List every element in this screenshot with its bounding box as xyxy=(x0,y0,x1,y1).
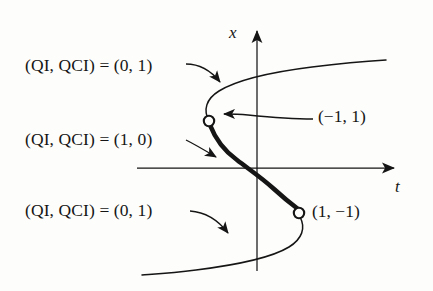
x-axis-label: x xyxy=(229,24,237,41)
arrow-cond-lower xyxy=(190,211,228,233)
condition-label-lower: (QI, QCI) = (0, 1) xyxy=(25,202,152,220)
arrow-cond-upper xyxy=(186,64,220,82)
arrow-point-upper xyxy=(224,114,313,119)
point-label-lower: (1, −1) xyxy=(312,203,360,221)
figure-canvas: (QI, QCI) = (0, 1) (QI, QCI) = (1, 0) (Q… xyxy=(0,0,433,291)
marker-point-lower xyxy=(294,208,304,218)
arrow-cond-mid xyxy=(186,140,216,157)
condition-label-middle: (QI, QCI) = (1, 0) xyxy=(25,131,152,149)
t-axis-label: t xyxy=(395,178,400,195)
point-label-upper: (−1, 1) xyxy=(318,108,366,126)
curve-middle-branch xyxy=(210,125,298,209)
condition-label-upper: (QI, QCI) = (0, 1) xyxy=(25,57,152,75)
marker-point-upper xyxy=(204,116,214,126)
